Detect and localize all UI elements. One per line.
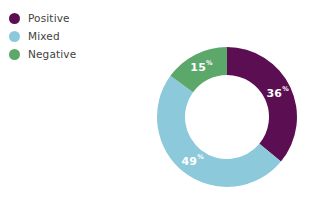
donut-slice-positive[interactable]: [227, 47, 297, 162]
legend-label-positive: Positive: [28, 12, 70, 24]
legend-item-negative[interactable]: Negative: [9, 48, 76, 60]
legend-item-mixed[interactable]: Mixed: [9, 30, 76, 42]
legend-dot-icon-mixed: [9, 31, 20, 42]
donut-chart-svg: 36%49%15%: [152, 42, 302, 192]
legend-dot-icon-positive: [9, 13, 20, 24]
donut-slice-group: [157, 47, 297, 187]
legend-dot-icon-negative: [9, 49, 20, 60]
chart-legend: Positive Mixed Negative: [9, 12, 76, 60]
legend-item-positive[interactable]: Positive: [9, 12, 76, 24]
legend-label-negative: Negative: [28, 48, 76, 60]
legend-label-mixed: Mixed: [28, 30, 60, 42]
donut-chart: 36%49%15%: [152, 42, 302, 192]
